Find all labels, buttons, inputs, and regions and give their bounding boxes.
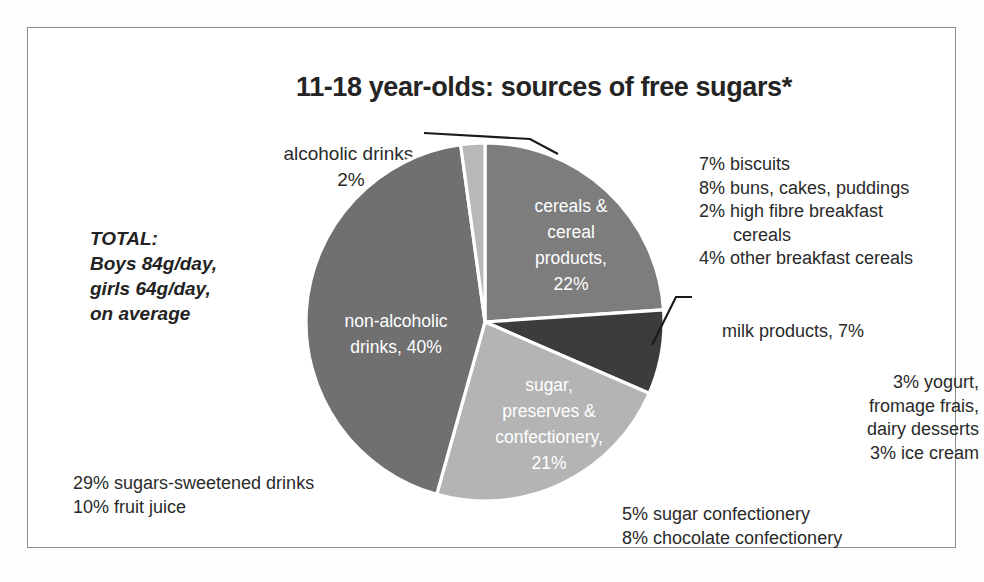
chart-page: 11-18 year-olds: sources of free sugars*… [0, 0, 984, 582]
pie-chart: cereals &cerealproducts,22%sugar,preserv… [0, 0, 984, 582]
